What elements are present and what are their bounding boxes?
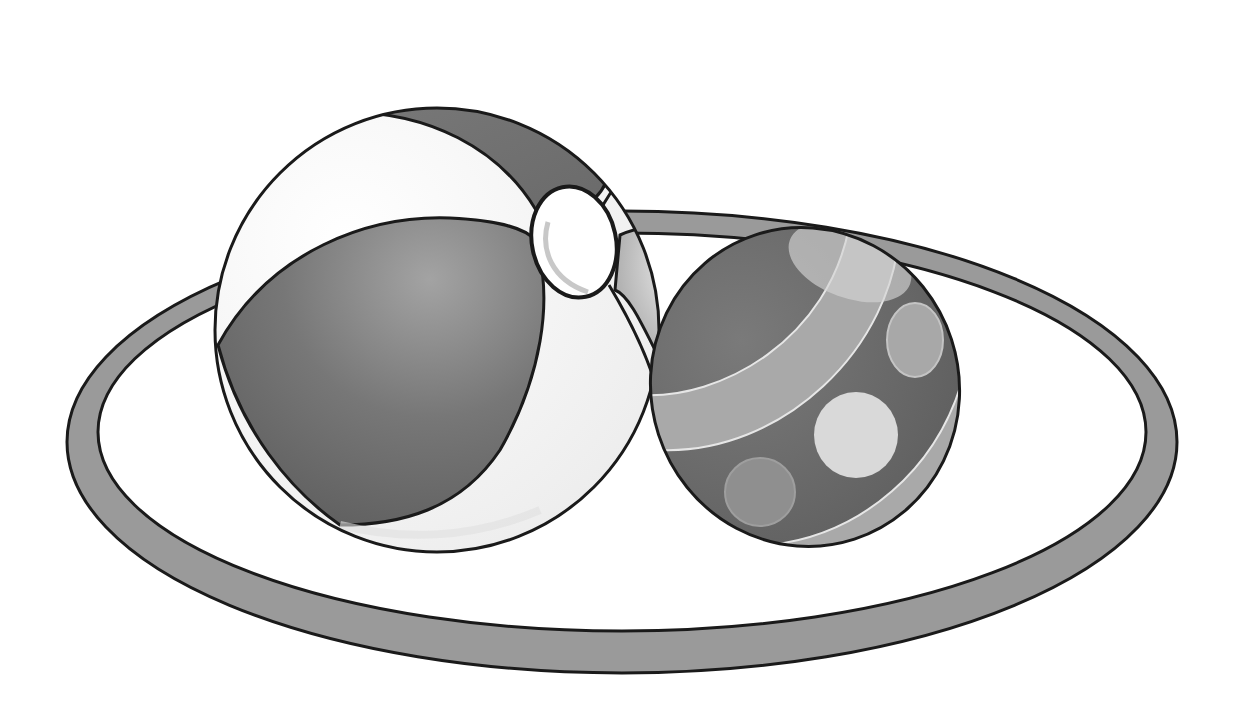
spotted-ball-spot xyxy=(814,392,898,478)
spotted-ball-spot xyxy=(725,458,795,526)
spotted-ball-spot xyxy=(887,303,943,377)
illustration-canvas xyxy=(0,0,1241,712)
illustration-scene xyxy=(0,0,1241,712)
